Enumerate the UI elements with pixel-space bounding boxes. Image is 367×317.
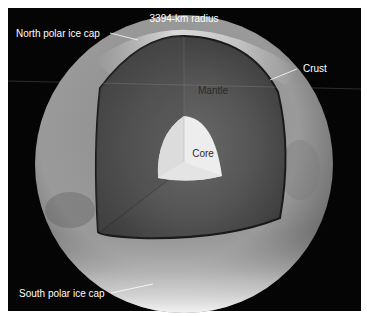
crust-label: Crust xyxy=(303,63,327,74)
core-label: Core xyxy=(192,148,214,159)
south-polar-ice-cap-label: South polar ice cap xyxy=(19,288,105,299)
radius-title: 3394-km radius xyxy=(150,13,219,24)
mantle-label: Mantle xyxy=(198,85,228,96)
north-polar-ice-cap-label: North polar ice cap xyxy=(16,28,100,39)
mars-interior-diagram: 3394-km radius North polar ice cap Crust… xyxy=(0,0,367,317)
